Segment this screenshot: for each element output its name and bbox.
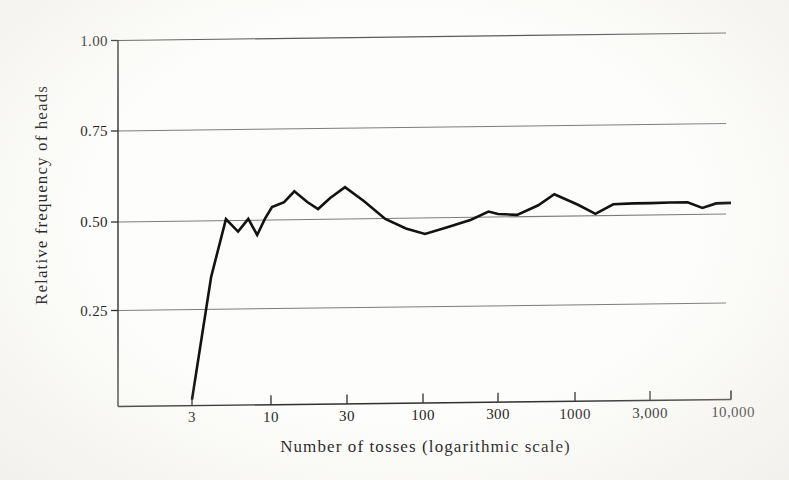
y-tick-label-0.25: 0.25 [48,303,108,320]
axis-spine-group [118,40,731,407]
x-tick-label-30: 30 [317,408,377,425]
x-axis-title: Number of tosses (logarithmic scale) [118,437,733,457]
figure-canvas: 1.00 0.75 0.50 0.25 3 10 30 100 300 1000… [0,0,789,480]
x-tick-label-1000: 1000 [543,406,607,423]
y-tick-label-0.50: 0.50 [48,214,108,231]
gridline-1.00 [118,33,726,41]
gridline-0.50 [118,214,726,222]
x-tick-label-3000: 3,000 [617,405,683,422]
x-tick-label-300: 300 [468,406,528,423]
y-tick-label-0.75: 0.75 [48,123,108,140]
gridline-0.25 [118,303,726,311]
data-series-line [192,187,731,399]
gridline-group [118,33,726,311]
x-tick-label-3: 3 [162,409,222,426]
y-tickmark-group [111,41,118,311]
x-tick-label-10: 10 [241,409,301,426]
x-tickmark-group [192,390,731,405]
x-tick-label-100: 100 [393,407,453,424]
y-tick-label-1.00: 1.00 [48,33,108,50]
y-axis-title: Relative frequency of heads [32,65,52,325]
x-tick-label-10000: 10,000 [695,404,771,421]
gridline-0.75 [118,124,726,132]
